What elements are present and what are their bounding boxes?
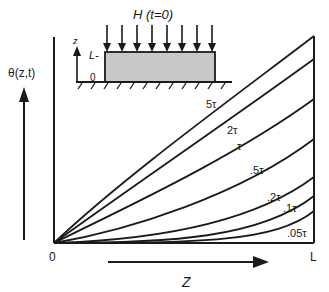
curve-tau (54, 99, 314, 243)
arrow-right-icon (253, 256, 269, 268)
x-axis-label: Z (181, 274, 191, 290)
x-axis-arrow (108, 256, 269, 268)
label-02tau: .2τ (267, 191, 281, 203)
y-axis-arrow (19, 87, 29, 240)
arrow-down-icon (163, 25, 171, 52)
arrow-down-icon (193, 25, 201, 52)
ground-hatching (78, 83, 225, 89)
arrow-up-icon (19, 87, 29, 102)
label-05tau: .5τ (250, 164, 264, 176)
arrow-up-icon (73, 46, 81, 56)
inset-soil-layer: H (t=0) (72, 7, 232, 89)
label-5tau: 5τ (206, 98, 217, 110)
label-005tau: .05τ (287, 227, 307, 239)
curve-02tau (54, 177, 314, 243)
arrow-down-icon (178, 25, 186, 52)
load-arrows (103, 25, 216, 52)
arrow-down-icon (118, 25, 126, 52)
origin-label: 0 (49, 250, 56, 264)
inset-title: H (t=0) (133, 7, 173, 22)
label-01tau: .1τ (283, 202, 297, 214)
arrow-down-icon (208, 25, 216, 52)
arrow-down-icon (133, 25, 141, 52)
soil-layer-box (105, 52, 215, 82)
y-axis-label: θ(z,t) (8, 66, 35, 80)
inset-z-label: z (72, 36, 78, 46)
label-2tau: 2τ (227, 124, 238, 136)
label-tau: τ (237, 140, 242, 152)
curve-labels: 5τ 2τ τ .5τ .2τ .1τ .05τ (206, 98, 307, 239)
inset-bottom-label: 0 (90, 72, 96, 83)
arrow-down-icon (148, 25, 156, 52)
x-end-label: L (310, 250, 317, 264)
arrow-down-icon (103, 25, 111, 52)
inset-top-label: L- (89, 49, 99, 61)
consolidation-diagram: 5τ 2τ τ .5τ .2τ .1τ .05τ θ(z,t) Z 0 L H … (0, 0, 329, 292)
